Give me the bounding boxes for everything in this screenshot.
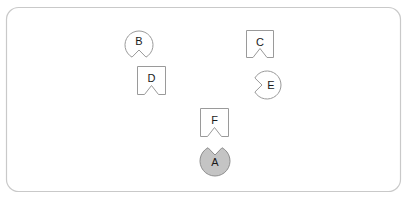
shape-c[interactable]: C xyxy=(247,31,274,58)
shape-a-label: A xyxy=(211,156,219,168)
shapes-layer: ABCDEF xyxy=(125,31,281,176)
shape-e[interactable]: E xyxy=(255,71,281,99)
shape-f[interactable]: F xyxy=(201,109,229,137)
shape-e-label: E xyxy=(267,79,274,91)
shape-arrangement-board: ABCDEF xyxy=(0,0,409,200)
shape-f-label: F xyxy=(211,114,218,126)
shape-d-label: D xyxy=(148,72,156,84)
shape-a[interactable]: A xyxy=(200,148,230,176)
shape-b-label: B xyxy=(135,35,142,47)
shape-b[interactable]: B xyxy=(125,31,153,57)
scene-canvas: ABCDEF xyxy=(0,0,409,200)
shape-d[interactable]: D xyxy=(138,67,166,95)
shape-c-label: C xyxy=(256,36,264,48)
